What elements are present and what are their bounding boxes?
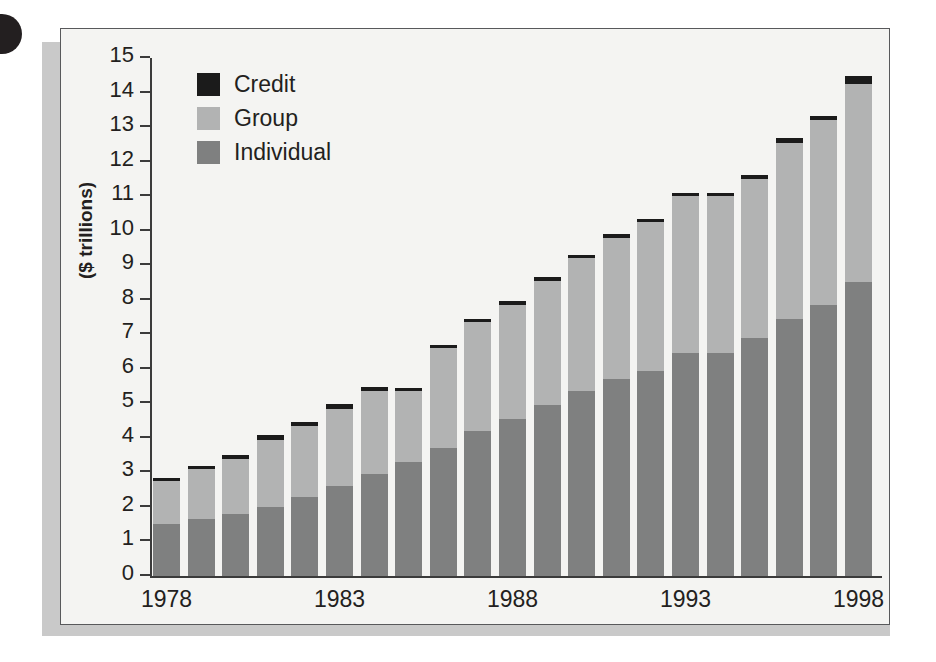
y-tick: 3 (140, 470, 150, 472)
y-tick-label: 7 (94, 321, 134, 341)
y-tick: 5 (140, 401, 150, 403)
bar-segment-credit (603, 234, 630, 237)
bar-segment-individual (326, 486, 353, 576)
y-tick: 14 (140, 91, 150, 93)
bar-segment-credit (361, 387, 388, 391)
bar-segment-group (672, 196, 699, 353)
y-tick-label: 6 (94, 356, 134, 376)
bar-segment-individual (672, 353, 699, 576)
y-tick-label: 15 (94, 45, 134, 65)
x-tick-label-1983: 1983 (300, 586, 380, 613)
bar-1992[interactable] (637, 58, 664, 576)
bar-segment-individual (257, 507, 284, 576)
bar-segment-individual (568, 391, 595, 576)
bar-1988[interactable] (499, 58, 526, 576)
bar-segment-individual (464, 431, 491, 576)
bar-segment-credit (291, 422, 318, 426)
bar-segment-credit (153, 478, 180, 481)
bar-1995[interactable] (741, 58, 768, 576)
bar-segment-group (222, 459, 249, 514)
bar-segment-credit (810, 116, 837, 120)
bar-1998[interactable] (845, 58, 872, 576)
bar-segment-credit (430, 345, 457, 348)
x-axis-line (150, 576, 882, 578)
y-tick-label: 13 (94, 114, 134, 134)
bar-1990[interactable] (568, 58, 595, 576)
bar-segment-individual (188, 519, 215, 576)
bar-segment-individual (637, 371, 664, 576)
y-tick: 7 (140, 332, 150, 334)
bar-segment-group (361, 391, 388, 474)
page-bullet-marker (0, 14, 22, 54)
bar-segment-individual (810, 305, 837, 576)
x-tick-label-1998: 1998 (819, 586, 899, 613)
y-tick-label: 10 (94, 218, 134, 238)
chart-legend: CreditGroupIndividual (197, 67, 331, 169)
bar-1994[interactable] (707, 58, 734, 576)
chart-panel: ($ trillions) 1514131211109876543210 197… (60, 28, 890, 625)
bar-segment-individual (845, 282, 872, 576)
bar-segment-individual (291, 497, 318, 576)
bar-segment-individual (776, 319, 803, 576)
bar-1978[interactable] (153, 58, 180, 576)
bar-segment-individual (222, 514, 249, 576)
bar-segment-credit (257, 435, 284, 439)
bar-segment-individual (707, 353, 734, 576)
bar-1986[interactable] (430, 58, 457, 576)
y-tick: 8 (140, 298, 150, 300)
bar-segment-group (499, 305, 526, 419)
y-tick: 9 (140, 263, 150, 265)
bar-1984[interactable] (361, 58, 388, 576)
legend-swatch-group (197, 107, 220, 130)
x-tick-label-1993: 1993 (646, 586, 726, 613)
y-tick: 15 (140, 56, 150, 58)
bar-segment-credit (707, 193, 734, 196)
bar-segment-group (430, 348, 457, 448)
legend-label-credit: Credit (234, 73, 295, 96)
bar-1997[interactable] (810, 58, 837, 576)
bar-segment-individual (395, 462, 422, 576)
legend-label-group: Group (234, 107, 298, 130)
bar-segment-individual (499, 419, 526, 576)
y-tick: 1 (140, 539, 150, 541)
y-tick: 11 (140, 194, 150, 196)
y-tick: 6 (140, 367, 150, 369)
bar-1993[interactable] (672, 58, 699, 576)
legend-item-individual[interactable]: Individual (197, 135, 331, 169)
bar-segment-credit (534, 277, 561, 280)
bar-1996[interactable] (776, 58, 803, 576)
bar-segment-group (707, 196, 734, 353)
bar-segment-group (257, 440, 284, 507)
bar-1985[interactable] (395, 58, 422, 576)
bar-segment-group (464, 322, 491, 431)
bar-segment-individual (361, 474, 388, 576)
y-tick-label: 11 (94, 183, 134, 203)
bar-1987[interactable] (464, 58, 491, 576)
y-tick-label: 12 (94, 149, 134, 169)
y-tick-label: 8 (94, 287, 134, 307)
bar-segment-credit (776, 138, 803, 142)
bar-segment-credit (326, 404, 353, 408)
legend-item-group[interactable]: Group (197, 101, 331, 135)
bar-segment-credit (188, 466, 215, 469)
legend-swatch-individual (197, 141, 220, 164)
bar-segment-group (810, 120, 837, 305)
bar-segment-group (776, 143, 803, 319)
bar-segment-credit (568, 255, 595, 258)
y-tick-label: 5 (94, 390, 134, 410)
y-tick: 10 (140, 229, 150, 231)
bar-1991[interactable] (603, 58, 630, 576)
y-tick: 4 (140, 436, 150, 438)
bar-1989[interactable] (534, 58, 561, 576)
bar-segment-credit (499, 301, 526, 304)
y-tick-label: 2 (94, 494, 134, 514)
bar-segment-group (845, 84, 872, 283)
legend-item-credit[interactable]: Credit (197, 67, 331, 101)
bar-segment-individual (153, 524, 180, 576)
bar-segment-credit (741, 175, 768, 178)
bar-segment-group (153, 481, 180, 524)
legend-swatch-credit (197, 73, 220, 96)
x-tick-label-1978: 1978 (127, 586, 207, 613)
bar-segment-group (395, 391, 422, 462)
bar-segment-group (326, 409, 353, 487)
